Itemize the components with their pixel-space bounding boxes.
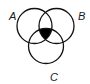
label-b: B <box>78 10 85 22</box>
circle-b <box>39 9 74 44</box>
circle-a <box>17 9 52 44</box>
label-c: C <box>50 71 58 83</box>
venn-diagram: A B C <box>0 0 90 84</box>
label-a: A <box>8 10 16 22</box>
